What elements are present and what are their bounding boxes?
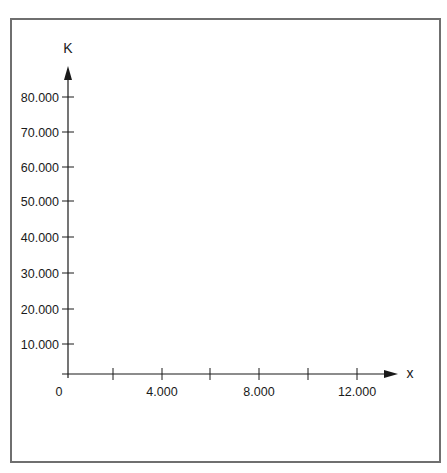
y-tick-label: 30.000 <box>21 267 59 281</box>
chart-canvas: K x 10.00020.00030.00040.00050.00060.000… <box>0 0 447 473</box>
x-axis-label: x <box>407 365 414 381</box>
x-ticks: 04.0008.00012.000 <box>56 368 377 399</box>
x-tick-label: 12.000 <box>338 385 376 399</box>
x-axis-arrow-icon <box>384 370 398 378</box>
y-tick-label: 10.000 <box>21 338 59 352</box>
x-tick-label: 0 <box>56 385 63 399</box>
y-axis-label: K <box>63 40 73 56</box>
x-tick-label: 4.000 <box>146 385 177 399</box>
y-tick-label: 80.000 <box>21 91 59 105</box>
y-tick-label: 20.000 <box>21 303 59 317</box>
y-tick-label: 70.000 <box>21 126 59 140</box>
y-ticks: 10.00020.00030.00040.00050.00060.00070.0… <box>21 91 74 352</box>
y-tick-label: 60.000 <box>21 161 59 175</box>
x-tick-label: 8.000 <box>243 385 274 399</box>
y-axis-arrow-icon <box>64 66 72 80</box>
y-tick-label: 40.000 <box>21 231 59 245</box>
y-tick-label: 50.000 <box>21 195 59 209</box>
